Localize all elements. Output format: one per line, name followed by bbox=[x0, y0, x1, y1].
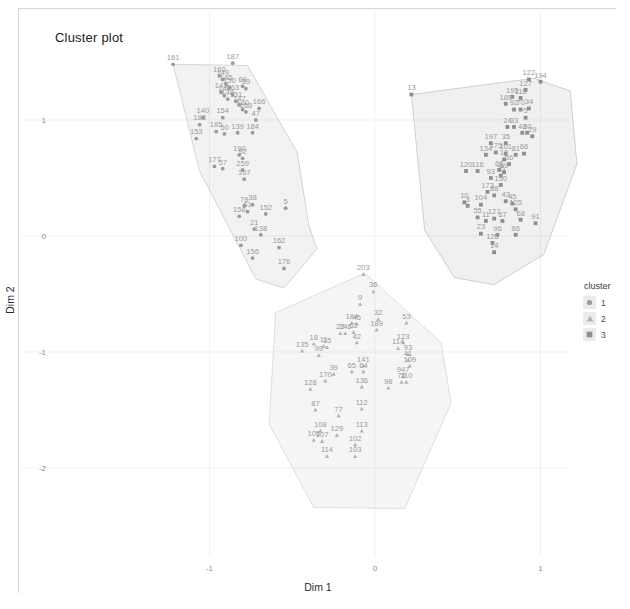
legend-item-2[interactable]: 2 bbox=[583, 311, 629, 326]
point-label: 36 bbox=[369, 280, 377, 289]
point-label: 118 bbox=[515, 87, 527, 96]
y-tick-label: 1 bbox=[42, 116, 47, 125]
point-label: 100 bbox=[235, 234, 248, 243]
point-label: 139 bbox=[231, 122, 244, 131]
point-label: 134 bbox=[480, 144, 493, 153]
point-label: 77 bbox=[334, 405, 342, 414]
point-label: 11 bbox=[482, 210, 490, 219]
data-point bbox=[214, 130, 218, 134]
data-point bbox=[514, 153, 518, 157]
x-tick-label: -1 bbox=[206, 564, 214, 573]
point-label: 68 bbox=[516, 209, 524, 218]
data-point bbox=[231, 61, 235, 65]
data-point bbox=[264, 212, 268, 216]
point-label: 167 bbox=[238, 168, 251, 177]
data-point bbox=[514, 233, 518, 237]
point-label: 9 bbox=[358, 293, 362, 302]
point-label: 50 bbox=[220, 123, 228, 132]
data-point bbox=[522, 152, 526, 156]
cluster-hull-2 bbox=[269, 273, 451, 508]
data-point bbox=[237, 214, 241, 218]
point-label: 136 bbox=[355, 376, 368, 385]
data-point bbox=[282, 267, 286, 271]
point-label: 188 bbox=[193, 113, 206, 122]
point-label: 158 bbox=[233, 205, 246, 214]
data-point bbox=[194, 137, 198, 141]
point-label: 128 bbox=[304, 378, 317, 387]
data-point bbox=[239, 243, 243, 247]
data-point bbox=[539, 80, 543, 84]
point-label: 3 bbox=[466, 195, 470, 204]
point-label: 34 bbox=[525, 97, 533, 106]
data-point bbox=[198, 123, 202, 127]
x-tick-label: 1 bbox=[538, 564, 543, 573]
data-point bbox=[499, 183, 503, 187]
point-label: 259 bbox=[236, 159, 249, 168]
point-label: 120 bbox=[460, 160, 473, 169]
point-label: 126 bbox=[486, 232, 499, 241]
point-label: 92 bbox=[238, 147, 246, 156]
legend-label-2: 2 bbox=[601, 314, 606, 324]
data-point bbox=[476, 216, 480, 220]
point-label: 166 bbox=[253, 97, 266, 106]
point-label: 81 bbox=[511, 144, 519, 153]
point-label: 197 bbox=[485, 132, 498, 141]
data-point bbox=[244, 87, 248, 91]
point-label: 18 bbox=[310, 333, 318, 342]
point-label: 161 bbox=[167, 53, 180, 62]
point-label: 130 bbox=[494, 174, 507, 183]
point-label: 42 bbox=[353, 332, 361, 341]
point-label: 153 bbox=[190, 127, 203, 136]
point-label: 55 bbox=[473, 206, 481, 215]
point-label: 129 bbox=[331, 424, 344, 433]
point-label: 102 bbox=[349, 434, 362, 443]
point-label: 114 bbox=[392, 337, 404, 346]
point-label: 113 bbox=[356, 420, 368, 429]
data-point bbox=[221, 167, 225, 171]
point-label: 99 bbox=[315, 344, 323, 353]
point-label: 194 bbox=[534, 71, 547, 80]
data-point bbox=[171, 62, 175, 66]
square-icon bbox=[583, 328, 596, 341]
point-label: 33 bbox=[510, 116, 518, 125]
point-label: 35 bbox=[502, 132, 510, 141]
circle-icon bbox=[583, 296, 596, 309]
legend-item-3[interactable]: 3 bbox=[583, 327, 629, 342]
point-label: 98 bbox=[384, 377, 392, 386]
legend-item-1[interactable]: 1 bbox=[583, 295, 629, 310]
point-label: 138 bbox=[254, 224, 267, 233]
data-point bbox=[489, 176, 493, 180]
point-label: 154 bbox=[216, 106, 229, 115]
data-point bbox=[244, 110, 248, 114]
point-label: 116 bbox=[472, 160, 484, 169]
point-label: 170 bbox=[319, 370, 332, 379]
data-point bbox=[410, 93, 414, 97]
point-label: 47 bbox=[252, 109, 260, 118]
point-label: 156 bbox=[246, 247, 259, 256]
point-label: 162 bbox=[273, 236, 286, 245]
data-point bbox=[492, 217, 496, 221]
data-point bbox=[524, 116, 528, 120]
point-label: 110 bbox=[400, 371, 412, 380]
data-point bbox=[236, 131, 240, 135]
point-label: 13 bbox=[407, 83, 415, 92]
triangle-icon bbox=[583, 312, 596, 325]
legend-label-1: 1 bbox=[601, 298, 606, 308]
point-label: 112 bbox=[356, 398, 368, 407]
point-label: 187 bbox=[226, 52, 239, 61]
point-label: 103 bbox=[349, 445, 362, 454]
cluster-group-3: 1312219412719511818992703452433483029197… bbox=[407, 68, 577, 285]
point-label: 57 bbox=[219, 158, 227, 167]
point-label: 62 bbox=[349, 321, 357, 330]
data-point bbox=[504, 102, 508, 106]
data-point bbox=[251, 131, 255, 135]
data-point bbox=[284, 206, 288, 210]
point-label: 91 bbox=[531, 212, 539, 221]
point-label: 168 bbox=[240, 101, 253, 110]
point-label: 189 bbox=[370, 319, 383, 328]
point-label: 184 bbox=[246, 122, 259, 131]
y-axis-title: Dim 2 bbox=[4, 286, 16, 314]
x-tick-label: 0 bbox=[373, 564, 378, 573]
point-label: 14 bbox=[490, 241, 498, 250]
data-point bbox=[476, 169, 480, 173]
